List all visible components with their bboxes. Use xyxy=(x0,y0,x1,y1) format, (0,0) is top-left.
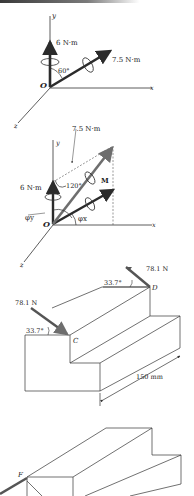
angle-arc-phi-x xyxy=(72,214,76,225)
origin-label: O xyxy=(43,219,50,229)
figure-3-forces: 78.1 N 33.7° D 78.1 N 33.7° C 150 mm xyxy=(15,265,169,381)
top-front-edge xyxy=(73,428,152,477)
bottom-edge xyxy=(100,348,180,391)
angle-arc-c xyxy=(48,327,49,335)
angle-label-d: 33.7° xyxy=(104,279,122,287)
x-axis-label: x xyxy=(152,221,156,229)
z-axis-label: z xyxy=(19,261,24,269)
force-label-d: 78.1 N xyxy=(146,265,169,273)
side-face xyxy=(25,335,100,391)
angle-arc-120 xyxy=(55,180,66,187)
face-diagonal xyxy=(27,481,42,496)
lower-step-front-edge xyxy=(85,455,181,496)
figure-1-couple-moments: y 6 N·m 7.5 N·m 60° O x z xyxy=(13,12,154,130)
dimension-label: 150 mm xyxy=(136,373,163,381)
z-axis xyxy=(24,225,53,262)
force-vector-f xyxy=(0,478,27,494)
top-step-back-edge xyxy=(52,287,150,308)
resultant-label: M xyxy=(101,176,109,185)
leader-line xyxy=(72,129,76,163)
origin-label: O xyxy=(40,80,47,90)
point-label-d: D xyxy=(151,284,158,292)
angle-arc-d xyxy=(130,280,132,287)
textbook-figures: y 6 N·m 7.5 N·m 60° O x z 7.5 N·m y 6 N·… xyxy=(0,0,194,496)
top-block-edges xyxy=(27,428,152,477)
z-axis-label: z xyxy=(13,122,18,130)
angle-label: 120° xyxy=(66,182,82,190)
moment-label-inclined: 7.5 N·m xyxy=(112,56,141,64)
point-label-c: C xyxy=(73,337,79,345)
point-label-f: F xyxy=(17,471,24,479)
phi-y-label: φy xyxy=(25,214,34,222)
figure-2-resultant-moment: 7.5 N·m y 6 N·m 120° M φy φx O x z xyxy=(19,125,156,269)
moment-label-inclined: 7.5 N·m xyxy=(72,125,101,133)
angle-label: 60° xyxy=(58,67,70,75)
figure-4-forces: F xyxy=(0,471,27,494)
lower-step-front-edge xyxy=(100,316,180,363)
moment-label-vertical: 6 N·m xyxy=(20,184,42,192)
top-step-front-edge xyxy=(70,287,150,335)
lower-step-inner-edge xyxy=(70,316,150,363)
y-axis-label: y xyxy=(55,139,60,147)
y-axis-label: y xyxy=(51,12,57,20)
figure-4-stepped-block xyxy=(27,428,181,496)
force-label-c: 78.1 N xyxy=(15,299,38,307)
z-axis xyxy=(18,88,50,123)
bottom-edge xyxy=(130,484,181,496)
moment-label-vertical: 6 N·m xyxy=(56,39,78,47)
resultant-vector-m xyxy=(53,148,112,224)
phi-x-label: φx xyxy=(78,215,87,223)
angle-label-c: 33.7° xyxy=(26,327,44,335)
figure-3-stepped-block xyxy=(25,287,180,406)
x-axis-label: x xyxy=(150,84,154,92)
